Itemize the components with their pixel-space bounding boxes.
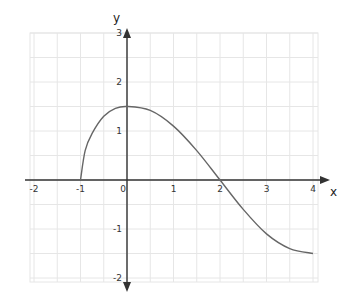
x-axis-label: x [330, 185, 337, 199]
y-axis-arrow-down-icon [123, 282, 131, 292]
x-tick-label: 3 [264, 184, 270, 194]
axes [25, 28, 330, 292]
grid-lines [30, 33, 318, 282]
y-axis-label: y [113, 11, 120, 25]
y-tick-label: -1 [113, 224, 122, 234]
x-tick-label: 0 [120, 184, 126, 194]
y-tick-label: 3 [116, 28, 122, 38]
x-tick-label: 2 [217, 184, 223, 194]
y-tick-label: 1 [116, 126, 122, 136]
x-axis-arrow-icon [320, 176, 330, 184]
x-tick-label: 4 [310, 184, 316, 194]
x-tick-label: -1 [76, 184, 85, 194]
function-graph: -2-101234321-1-2 x y [0, 0, 354, 308]
y-tick-label: -2 [113, 273, 122, 283]
x-tick-label: -2 [30, 184, 39, 194]
x-tick-label: 1 [171, 184, 177, 194]
y-tick-label: 2 [116, 77, 122, 87]
